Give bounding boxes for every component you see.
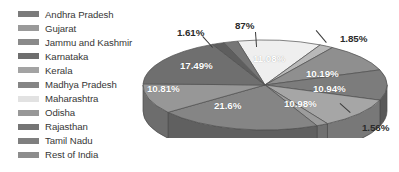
legend-swatch-icon [18,25,39,31]
legend-item-label: Karnataka [45,51,88,62]
legend-item-madhya-pradesh[interactable]: Madhya Pradesh [18,77,158,91]
pie-label-gujarat: 10.81% [147,83,180,94]
pie-label-karnataka: 1.61% [177,27,204,38]
pie-label-small-right: 1.56% [362,122,389,133]
legend-swatch-icon [18,67,39,73]
legend-item-rajasthan[interactable]: Rajasthan [18,120,158,134]
legend-item-tamil-nadu[interactable]: Tamil Nadu [18,134,158,148]
legend-item-label: Kerala [45,65,72,76]
legend-item-label: Andhra Pradesh [45,9,114,20]
legend-item-odisha[interactable]: Odisha [18,106,158,120]
legend-swatch-icon [18,53,39,59]
pie-label-rajasthan: 10.19% [306,68,339,79]
legend-item-jammu-and-kashmir[interactable]: Jammu and Kashmir [18,35,158,49]
legend-item-label: Madhya Pradesh [45,79,117,90]
legend-item-label: Maharashtra [45,93,98,104]
legend-item-maharashtra[interactable]: Maharashtra [18,92,158,106]
pie-label-andhra-pradesh: 21.6% [214,100,241,111]
legend-item-label: Rajasthan [45,121,88,132]
legend-swatch-icon [18,39,39,45]
pie-label-odisha: 1.85% [340,33,367,44]
legend-item-andhra-pradesh[interactable]: Andhra Pradesh [18,7,158,21]
legend-swatch-icon [18,11,39,17]
legend-swatch-icon [18,96,39,102]
pie-label-kerala: 87% [235,20,254,31]
legend-swatch-icon [18,82,39,88]
pie-plot-area: 1.61% 87% 1.85% 11.08% 10.19% 10.94% 10.… [150,0,399,172]
chart-legend: Andhra Pradesh Gujarat Jammu and Kashmir… [18,7,158,162]
legend-swatch-icon [18,138,39,144]
legend-item-label: Odisha [45,107,75,118]
legend-item-rest-of-india[interactable]: Rest of India [18,148,158,162]
legend-item-label: Tamil Nadu [45,135,93,146]
legend-item-label: Rest of India [45,149,98,160]
legend-swatch-icon [18,152,39,158]
pie-label-rest-of-india: 10.98% [284,98,317,109]
legend-item-label: Gujarat [45,23,76,34]
legend-item-karnataka[interactable]: Karnataka [18,49,158,63]
legend-item-gujarat[interactable]: Gujarat [18,21,158,35]
legend-item-kerala[interactable]: Kerala [18,63,158,77]
legend-swatch-icon [18,110,39,116]
pie-label-jammu-kashmir: 17.49% [180,60,213,71]
legend-item-label: Jammu and Kashmir [45,37,132,48]
legend-swatch-icon [18,124,39,130]
pie-chart-figure: Andhra Pradesh Gujarat Jammu and Kashmir… [0,0,399,172]
pie-label-maharashtra: 11.08% [253,53,285,64]
pie-label-tamil-nadu: 10.94% [313,83,346,94]
